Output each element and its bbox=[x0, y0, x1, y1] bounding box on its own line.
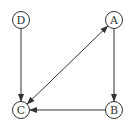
node-b: B bbox=[106, 102, 123, 119]
node-d: D bbox=[13, 12, 30, 29]
graph-diagram: ABCD bbox=[0, 0, 133, 128]
edges-layer bbox=[21, 26, 114, 110]
node-label: B bbox=[110, 104, 118, 117]
edge-a-c-bidirectional-arrow bbox=[27, 26, 108, 104]
node-label: D bbox=[17, 14, 26, 27]
node-label: C bbox=[17, 104, 25, 117]
node-c: C bbox=[13, 102, 30, 119]
node-a: A bbox=[106, 12, 123, 29]
node-label: A bbox=[109, 14, 119, 27]
